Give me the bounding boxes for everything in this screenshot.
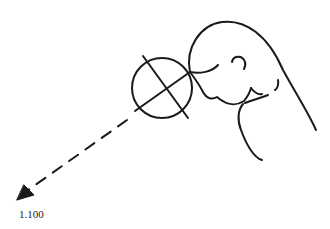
figure-number: 1.100	[19, 208, 44, 220]
illustration	[0, 0, 330, 229]
head-profile-icon	[189, 22, 316, 160]
dashed-arrow-icon	[17, 120, 127, 200]
crossed-circle-icon	[132, 56, 192, 118]
diagram-figure	[0, 0, 330, 229]
